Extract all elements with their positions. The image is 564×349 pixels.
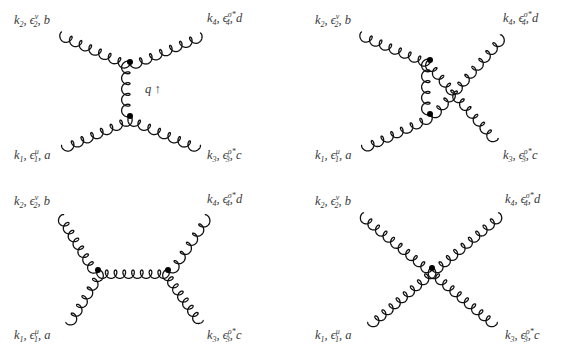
gluon-line — [62, 116, 133, 151]
label-d2-p2: k2, ϵν2, b — [315, 10, 351, 32]
gluon-line — [360, 32, 431, 66]
vertex-dot — [127, 59, 133, 65]
label-d3-p1: k1, ϵμ1, a — [14, 325, 50, 347]
vertex-dot — [95, 267, 101, 273]
gluon-line — [122, 61, 130, 117]
gluon-line — [428, 268, 497, 327]
label-d4-p2: k2, ϵν2, b — [315, 191, 351, 213]
gluon-line — [426, 60, 499, 142]
diagram-crossed — [360, 32, 504, 151]
label-d1-p4: k4, ϵσ*4, d — [207, 8, 242, 30]
label-d2-p4: k4, ϵσ*4, d — [503, 8, 538, 30]
vertex-dot — [429, 265, 435, 271]
gluon-line — [360, 213, 432, 273]
gluon-line — [368, 268, 436, 327]
label-d1-p2: k2, ϵν2, b — [14, 10, 50, 32]
label-d3-p4: k4, ϵσ*4, d — [207, 189, 242, 211]
gluon-line — [130, 33, 202, 68]
gluon-line — [97, 270, 170, 278]
label-d4-p3: k3, ϵρ*3, c — [505, 325, 540, 347]
gluon-line — [168, 215, 210, 273]
momentum-annotation-q: q ↑ — [145, 82, 161, 97]
label-d4-p4: k4, ϵσ*4, d — [505, 189, 540, 211]
diagram-horizontal-exchange — [58, 215, 209, 325]
gluon-line — [58, 215, 98, 274]
label-d4-p1: k1, ϵμ1, a — [315, 325, 351, 347]
gluon-line — [60, 32, 131, 68]
gluon-line — [163, 270, 203, 324]
vertex-dot — [165, 267, 171, 273]
label-d2-p1: k1, ϵμ1, a — [315, 145, 351, 167]
feynman-diagrams-canvas — [0, 0, 564, 349]
vertex-dot — [427, 57, 433, 63]
vertex-dot — [127, 113, 133, 119]
gluon-line — [432, 213, 502, 273]
label-d3-p3: k3, ϵρ*3, c — [207, 325, 242, 347]
label-d1-p3: k3, ϵρ*3, c — [207, 145, 242, 167]
label-d2-p3: k3, ϵρ*3, c — [503, 145, 538, 167]
vertex-dot — [427, 111, 433, 117]
gluon-line — [66, 270, 103, 325]
gluon-line — [128, 116, 200, 151]
label-d3-p2: k2, ϵν2, b — [14, 191, 50, 213]
gluon-line — [362, 114, 433, 151]
label-d1-p1: k1, ϵμ1, a — [14, 145, 50, 167]
diagram-s-channel — [60, 32, 202, 151]
diagram-four-gluon-contact — [360, 213, 501, 327]
